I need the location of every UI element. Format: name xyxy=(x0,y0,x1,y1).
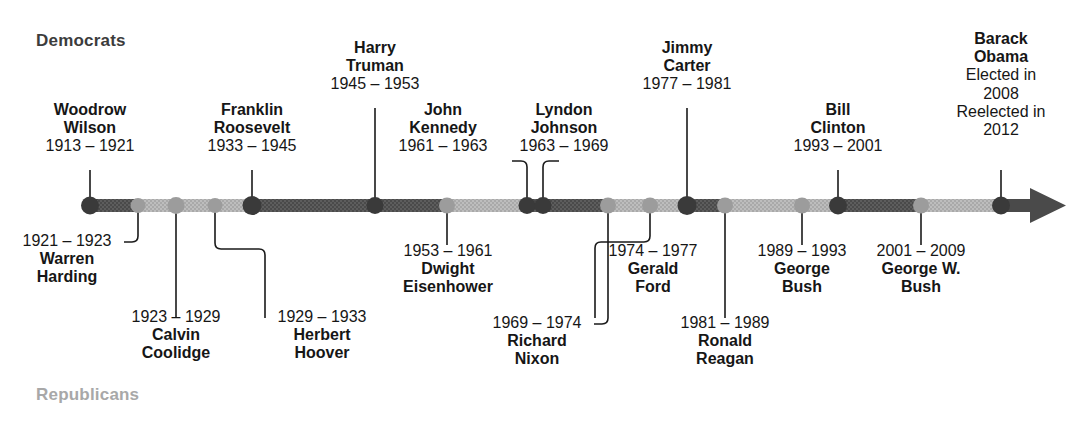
president-last-name: Coolidge xyxy=(142,344,210,362)
dot-harding xyxy=(131,198,146,213)
dot-george-bush xyxy=(794,198,810,214)
label-dwight-eisenhower: 1953 – 1961 Dwight Eisenhower xyxy=(383,242,513,297)
president-last-name: Wilson xyxy=(64,119,116,137)
president-first-name: Franklin xyxy=(221,101,283,119)
label-harry-truman: Harry Truman 1945 – 1953 xyxy=(305,39,445,94)
president-first-name: Gerald xyxy=(628,260,679,278)
president-years: 1989 – 1993 xyxy=(758,242,847,260)
dot-carter xyxy=(678,196,697,215)
label-warren-harding: 1921 – 1923 Warren Harding xyxy=(10,232,124,287)
president-first-name: Warren xyxy=(40,250,95,268)
president-first-name: Ronald xyxy=(698,332,752,350)
label-richard-nixon: 1969 – 1974 Richard Nixon xyxy=(480,314,594,369)
dot-obama xyxy=(992,197,1010,215)
president-years: 1993 – 2001 xyxy=(794,137,883,155)
president-years: 1963 – 1969 xyxy=(520,137,609,155)
president-last-name: Carter xyxy=(663,57,710,75)
label-ronald-reagan: 1981 – 1989 Ronald Reagan xyxy=(668,314,782,369)
president-years: 1929 – 1933 xyxy=(278,308,367,326)
dot-nixon xyxy=(600,198,616,214)
obama-reelected-label: Reelected in xyxy=(957,103,1046,121)
dot-truman xyxy=(367,197,384,214)
president-first-name: Woodrow xyxy=(54,101,127,119)
label-calvin-coolidge: 1923 – 1929 Calvin Coolidge xyxy=(119,308,233,363)
president-first-name: John xyxy=(424,101,462,119)
label-franklin-roosevelt: Franklin Roosevelt 1933 – 1945 xyxy=(182,101,322,156)
president-first-name: Calvin xyxy=(152,326,200,344)
timeline-figure: Democrats Republicans xyxy=(0,0,1088,421)
dot-coolidge xyxy=(168,197,185,214)
label-gerald-ford: 1974 – 1977 Gerald Ford xyxy=(596,242,710,297)
dot-reagan xyxy=(717,198,733,214)
label-george-bush: 1989 – 1993 George Bush xyxy=(745,242,859,297)
axis-segments xyxy=(88,199,1033,212)
president-last-name: Truman xyxy=(346,57,404,75)
label-woodrow-wilson: Woodrow Wilson 1913 – 1921 xyxy=(20,101,160,156)
president-years: 1923 – 1929 xyxy=(132,308,221,326)
president-years: 1961 – 1963 xyxy=(399,137,488,155)
label-herbert-hoover: 1929 – 1933 Herbert Hoover xyxy=(265,308,379,363)
obama-reelected-year: 2012 xyxy=(983,121,1019,139)
president-years: 2001 – 2009 xyxy=(877,242,966,260)
president-first-name: George W. xyxy=(881,260,960,278)
label-bill-clinton: Bill Clinton 1993 – 2001 xyxy=(768,101,908,156)
president-first-name: Bill xyxy=(826,101,851,119)
president-years: 1969 – 1974 xyxy=(493,314,582,332)
dot-eisenhower xyxy=(439,198,455,214)
label-lyndon-johnson: Lyndon Johnson 1963 – 1969 xyxy=(489,101,639,156)
president-last-name: Nixon xyxy=(515,350,559,368)
president-years: 1933 – 1945 xyxy=(208,137,297,155)
label-barack-obama: Barack Obama Elected in 2008 Reelected i… xyxy=(926,30,1076,139)
dot-clinton xyxy=(829,197,847,215)
president-last-name: Bush xyxy=(901,278,941,296)
axis-arrowhead xyxy=(1001,188,1066,223)
label-george-w-bush: 2001 – 2009 George W. Bush xyxy=(864,242,978,297)
dot-roosevelt xyxy=(243,196,262,215)
president-last-name: Bush xyxy=(782,278,822,296)
president-last-name: Roosevelt xyxy=(214,119,290,137)
president-last-name: Kennedy xyxy=(409,119,477,137)
president-last-name: Harding xyxy=(37,268,97,286)
president-last-name: Eisenhower xyxy=(403,278,493,296)
president-first-name: Richard xyxy=(507,332,567,350)
president-last-name: Hoover xyxy=(294,344,349,362)
president-first-name: Dwight xyxy=(421,260,474,278)
dot-hoover xyxy=(208,198,223,213)
president-first-name: George xyxy=(774,260,830,278)
dot-johnson xyxy=(535,197,552,214)
president-years: 1977 – 1981 xyxy=(643,75,732,93)
dot-wilson xyxy=(81,197,99,215)
dot-kennedy xyxy=(519,197,536,214)
president-years: 1913 – 1921 xyxy=(46,137,135,155)
president-years: 1981 – 1989 xyxy=(681,314,770,332)
label-jimmy-carter: Jimmy Carter 1977 – 1981 xyxy=(617,39,757,94)
president-first-name: Lyndon xyxy=(535,101,592,119)
dot-gw-bush xyxy=(913,198,929,214)
president-years: 1945 – 1953 xyxy=(331,75,420,93)
president-last-name: Johnson xyxy=(531,119,598,137)
president-first-name: Harry xyxy=(354,39,396,57)
president-years: 1953 – 1961 xyxy=(404,242,493,260)
president-first-name: Herbert xyxy=(294,326,351,344)
president-last-name: Clinton xyxy=(810,119,865,137)
obama-elected-year: 2008 xyxy=(983,85,1019,103)
president-first-name: Jimmy xyxy=(662,39,713,57)
obama-elected-label: Elected in xyxy=(966,66,1036,84)
dot-ford xyxy=(642,198,658,214)
president-first-name: Barack xyxy=(974,30,1027,48)
president-years: 1974 – 1977 xyxy=(609,242,698,260)
president-last-name: Ford xyxy=(635,278,671,296)
president-years: 1921 – 1923 xyxy=(23,232,112,250)
president-last-name: Obama xyxy=(974,48,1028,66)
president-last-name: Reagan xyxy=(696,350,754,368)
